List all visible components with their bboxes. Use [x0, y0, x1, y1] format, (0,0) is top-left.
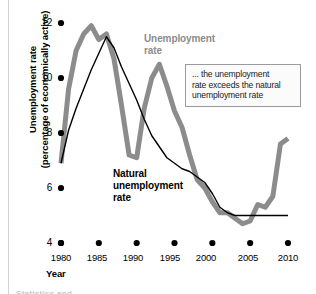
ytick-dot-8 — [58, 130, 64, 136]
y-axis-title: Unemployment rate (percentage of economi… — [27, 0, 50, 190]
ytick-label-4: 4 — [30, 237, 52, 248]
callout-annotation-box: ... the unemployment rate exceeds the na… — [185, 64, 301, 107]
xtick-dot-2005 — [247, 240, 253, 246]
chart-figure: Unemployment rate (percentage of economi… — [0, 0, 316, 294]
xtick-dot-2000 — [209, 240, 215, 246]
xtick-label-1985: 1985 — [80, 252, 114, 263]
xtick-label-1980: 1980 — [44, 252, 78, 263]
y-axis-title-line2: (percentage of economically active) — [38, 0, 50, 190]
natural-rate-label-line3: rate — [113, 192, 183, 204]
xtick-label-1995: 1995 — [153, 252, 187, 263]
xtick-label-2010: 2010 — [271, 252, 305, 263]
xtick-dot-1985 — [96, 240, 102, 246]
ytick-dot-10 — [58, 75, 64, 81]
unemployment-rate-label-line2: rate — [144, 45, 215, 57]
natural-rate-label-line1: Natural — [113, 168, 183, 180]
xtick-label-2005: 2005 — [231, 252, 265, 263]
unemployment-rate-label-line1: Unemployment — [144, 33, 215, 45]
ytick-dot-6 — [58, 185, 64, 191]
unemployment-rate-series-label: Unemployment rate — [144, 33, 215, 57]
clipped-page-caption: Statistics and — [16, 289, 72, 294]
natural-rate-label-line2: unemployment — [113, 180, 183, 192]
natural-unemployment-rate-series-label: Natural unemployment rate — [113, 168, 183, 204]
ytick-label-10: 10 — [30, 72, 52, 83]
xtick-label-1990: 1990 — [116, 252, 150, 263]
x-axis-title: Year — [46, 268, 66, 279]
ytick-label-8: 8 — [30, 127, 52, 138]
ytick-dot-12 — [58, 20, 64, 26]
ytick-label-12: 12 — [30, 17, 52, 28]
xtick-dot-1995 — [171, 240, 177, 246]
xtick-dot-1980 — [58, 240, 64, 246]
ytick-label-6: 6 — [30, 182, 52, 193]
y-axis-title-line1: Unemployment rate — [27, 46, 38, 133]
callout-line1: ... the unemployment — [192, 69, 295, 80]
xtick-dot-2010 — [285, 240, 291, 246]
callout-line2: rate exceeds the natural — [192, 80, 295, 91]
xtick-dot-1990 — [134, 240, 140, 246]
callout-line3: unemployment rate — [192, 90, 295, 101]
xtick-label-2000: 2000 — [189, 252, 223, 263]
